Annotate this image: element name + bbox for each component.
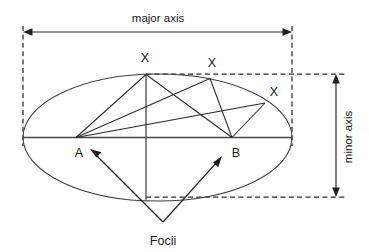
ellipse-internal-axes [23, 75, 292, 202]
focii-callout-arrows [90, 149, 222, 222]
focal-radii-lines [76, 75, 265, 138]
major-axis-arrowhead-left [23, 28, 33, 36]
major-axis-label: major axis [132, 12, 185, 24]
minor-axis-arrowhead-top [332, 74, 340, 84]
minor-axis-dimension-arrow [332, 74, 340, 197]
ellipse-diagram-canvas: major axis minor axis X X X A B Focii [0, 0, 369, 252]
chord-b-to-x1 [146, 75, 232, 138]
chord-b-to-x2 [210, 79, 232, 138]
dimension-guides [23, 26, 345, 197]
focus-b-label: B [232, 146, 240, 160]
point-x3-label: X [270, 85, 279, 99]
major-axis-dimension-arrow [23, 28, 292, 36]
focus-a-label: A [75, 146, 84, 160]
ellipse-diagram-figure: major axis minor axis X X X A B Focii [0, 0, 369, 252]
chord-a-to-x2 [76, 79, 210, 138]
major-axis-arrowhead-right [283, 28, 293, 36]
focii-label: Focii [150, 234, 176, 248]
focii-arrow-shaft-to-b [163, 162, 217, 222]
minor-axis-arrowhead-bottom [332, 188, 340, 198]
point-x1-label: X [141, 51, 150, 65]
focii-arrowhead-to-a [90, 149, 102, 157]
focii-arrow-shaft-to-a [96, 155, 163, 222]
point-x2-label: X [208, 56, 217, 70]
minor-axis-label: minor axis [342, 111, 354, 164]
